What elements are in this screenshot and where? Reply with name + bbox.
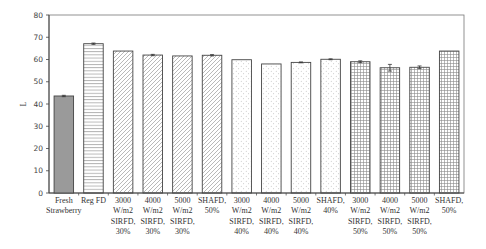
bar	[410, 66, 430, 193]
x-tick-label: 4000W/m2SIRFD,40%	[259, 196, 284, 236]
x-tick-label: 3000W/m2SIRFD,40%	[229, 196, 254, 236]
bar	[232, 60, 252, 193]
y-tick-label: 30	[33, 122, 43, 131]
bar	[54, 95, 73, 193]
y-tick-label: 70	[33, 33, 43, 42]
y-tick-label: 20	[33, 144, 43, 153]
y-tick-label: 0	[38, 189, 43, 198]
y-axis-label: L	[19, 101, 28, 106]
y-tick-label: 60	[33, 55, 43, 64]
y-tick-label: 10	[33, 166, 43, 175]
x-tick-label: 5000W/m2SIRFD,30%	[170, 196, 195, 236]
bar	[380, 64, 400, 193]
bar	[143, 54, 163, 193]
x-tick-label: SHAFD,50%	[435, 196, 463, 215]
x-tick-label: 3000W/m2SIRFD,50%	[348, 196, 373, 236]
y-tick-label: 40	[33, 100, 43, 109]
bar	[439, 51, 459, 193]
bar	[262, 64, 282, 193]
y-tick-label: 50	[33, 77, 43, 86]
bar-chart: 01020304050607080 FreshStrawberryReg FD3…	[0, 0, 486, 249]
x-tick-label: SHAFD,40%	[316, 196, 344, 215]
x-tick-label: Reg FD	[81, 196, 106, 205]
bar	[291, 62, 311, 193]
x-tick-label: SHAFD,50%	[198, 196, 226, 215]
x-tick-label: 4000W/m2SIRFD,50%	[378, 196, 403, 236]
bar	[321, 59, 341, 193]
x-tick-label: FreshStrawberry	[46, 196, 82, 215]
bar	[351, 61, 371, 193]
x-tick-label: 5000W/m2SIRFD,40%	[289, 196, 314, 236]
plot-frame	[49, 15, 464, 193]
x-axis-labels: FreshStrawberryReg FD3000W/m2SIRFD,30%40…	[46, 196, 463, 236]
x-tick-label: 4000W/m2SIRFD,30%	[140, 196, 165, 236]
x-tick-label: 3000W/m2SIRFD,30%	[111, 196, 136, 236]
bar	[113, 51, 133, 193]
bars	[54, 43, 459, 193]
bar	[84, 43, 104, 193]
bar	[202, 55, 222, 193]
x-tick-label: 5000W/m2SIRFD,50%	[407, 196, 432, 236]
y-tick-label: 80	[33, 11, 43, 20]
bar	[173, 56, 193, 193]
